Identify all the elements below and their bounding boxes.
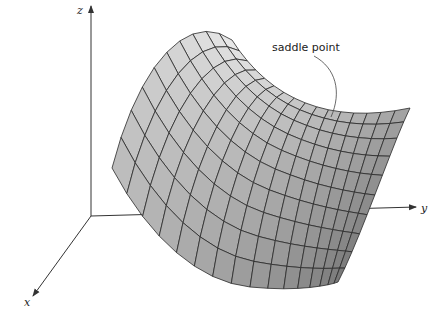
z-axis-label: z [76, 4, 83, 17]
y-axis-label: y [420, 202, 428, 215]
saddle-surface-diagram: z y x saddle point [0, 0, 446, 323]
x-axis-label: x [24, 296, 31, 309]
saddle-surface [112, 31, 410, 288]
x-axis [33, 216, 91, 296]
saddle-point-label: saddle point [272, 41, 340, 54]
surface-cell [390, 108, 410, 124]
